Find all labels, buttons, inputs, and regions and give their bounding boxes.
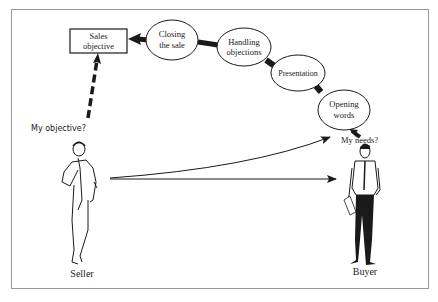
stage-presentation-line1: Presentation	[278, 69, 318, 78]
arrowhead-icon	[93, 53, 101, 64]
arrow-seller-to-opening	[110, 137, 330, 178]
stage-handling: Handling objections	[217, 28, 271, 66]
stage-handling-line2: objections	[227, 47, 262, 57]
sales-objective-line2: objective	[83, 41, 114, 51]
stage-closing: Closing the sale	[146, 20, 198, 60]
seller-figure-icon	[62, 142, 97, 264]
stage-handling-line1: Handling	[228, 37, 260, 47]
sales-objective-line1: Sales	[90, 31, 108, 41]
buyer-question: My needs?	[341, 135, 378, 145]
stage-opening: Opening words	[318, 90, 370, 130]
stage-opening-line1: Opening	[329, 99, 359, 109]
buyer-label: Buyer	[353, 266, 378, 277]
connector-seller-to-objective	[88, 53, 101, 118]
stage-presentation: Presentation	[271, 55, 325, 91]
buyer-figure-icon	[344, 144, 380, 265]
stage-opening-line2: words	[334, 110, 355, 120]
stage-closing-line2: the sale	[159, 40, 185, 50]
connector-opening-to-presentation	[316, 86, 321, 92]
stage-closing-line1: Closing	[159, 29, 186, 39]
sales-process-diagram: Sales objective Closing the sale Handlin…	[0, 0, 438, 302]
connector-closing-to-objective	[128, 33, 148, 45]
sales-objective-box: Sales objective	[70, 29, 127, 53]
seller-question: My objective?	[31, 124, 86, 133]
seller-label: Seller	[70, 268, 94, 279]
